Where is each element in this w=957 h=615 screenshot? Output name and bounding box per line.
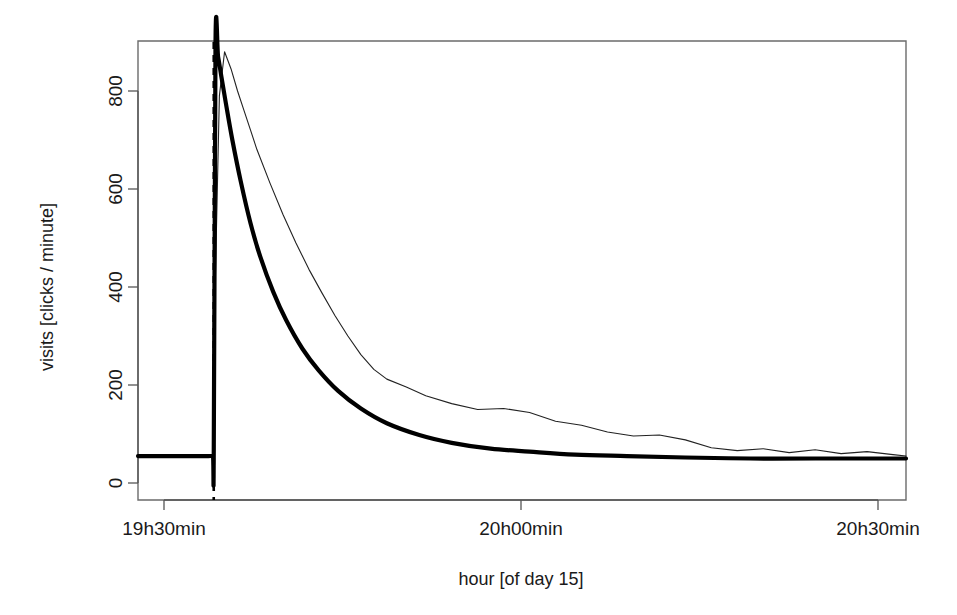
chart-figure: 0 200 400 600 800 visits [clicks / minut… xyxy=(0,0,957,615)
x-axis-ticks xyxy=(164,500,878,510)
y-tick-label-0: 0 xyxy=(105,478,126,489)
y-axis-ticks xyxy=(128,91,138,483)
series-empirical-visits xyxy=(138,52,906,456)
chart-canvas: 0 200 400 600 800 visits [clicks / minut… xyxy=(0,0,957,615)
y-axis-tick-labels: 0 200 400 600 800 xyxy=(105,75,126,488)
x-tick-label-2030: 20h30min xyxy=(836,518,919,539)
x-tick-label-2000: 20h00min xyxy=(479,518,562,539)
y-tick-label-800: 800 xyxy=(105,75,126,107)
x-axis-tick-labels: 19h30min 20h00min 20h30min xyxy=(122,518,919,539)
plot-frame xyxy=(138,41,906,500)
y-axis-title: visits [clicks / minute] xyxy=(37,203,57,371)
y-tick-label-600: 600 xyxy=(105,173,126,205)
data-layer xyxy=(138,17,906,500)
series-fitted-decay xyxy=(138,17,906,486)
y-tick-label-200: 200 xyxy=(105,369,126,401)
y-tick-label-400: 400 xyxy=(105,271,126,303)
x-axis-title: hour [of day 15] xyxy=(458,569,583,589)
x-tick-label-1930: 19h30min xyxy=(122,518,205,539)
